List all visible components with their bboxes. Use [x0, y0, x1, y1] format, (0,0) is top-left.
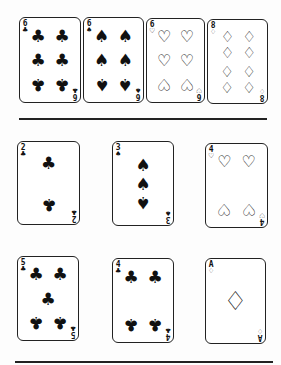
clubs-icon: ♣: [52, 265, 67, 282]
corner-index-bottom: 2♣: [71, 208, 77, 222]
spades-icon: ♠: [135, 175, 150, 192]
clubs-icon: ♣: [123, 269, 138, 286]
clubs-icon: ♣: [41, 154, 56, 171]
clubs-icon: ♣: [28, 265, 43, 282]
spades-icon: ♠: [94, 52, 109, 69]
spades-icon: ♠: [118, 75, 133, 92]
corner-index-top: A♢: [208, 261, 214, 275]
hearts-icon: ♡: [217, 201, 231, 217]
corner-index-top: 3♠: [115, 144, 121, 158]
card-A-of-diamonds[interactable]: A♢A♢♢: [205, 258, 266, 344]
diamonds-icon: ♢: [243, 79, 256, 94]
corner-index-top: 6♡: [149, 21, 155, 35]
card-8-of-diamonds[interactable]: 8♢8♢♢♢♢♢♢♢♢♢: [207, 19, 268, 104]
hearts-icon: ♡: [157, 53, 171, 69]
clubs-icon: ♣: [54, 28, 69, 45]
hearts-icon: ♡: [217, 154, 231, 170]
diamonds-icon: ♢: [259, 87, 265, 94]
card-6-of-hearts[interactable]: 6♡6♡♡♡♡♡♡♡: [146, 18, 205, 103]
clubs-icon: ♣: [165, 326, 171, 333]
clubs-icon: ♣: [72, 86, 78, 93]
card-2-of-clubs[interactable]: 2♣2♣♣♣: [17, 141, 80, 225]
clubs-icon: ♣: [115, 268, 121, 275]
diamonds-icon: ♢: [257, 327, 263, 334]
corner-index-bottom: 3♠: [165, 209, 171, 223]
corner-index-top: 8♢: [210, 22, 216, 36]
corner-index-top: 4♡: [208, 146, 214, 160]
card-3-of-spades[interactable]: 3♠3♠♠♠♠: [112, 141, 174, 226]
divider-line: [15, 361, 273, 363]
clubs-icon: ♣: [147, 269, 162, 286]
hearts-icon: ♡: [180, 76, 194, 92]
clubs-icon: ♣: [147, 315, 162, 332]
hearts-icon: ♡: [157, 76, 171, 92]
hearts-icon: ♡: [180, 53, 194, 69]
hearts-icon: ♡: [259, 211, 265, 218]
clubs-icon: ♣: [71, 208, 77, 215]
hearts-icon: ♡: [208, 153, 214, 160]
diamonds-icon: ♢: [221, 62, 234, 77]
spades-icon: ♠: [94, 28, 109, 45]
spades-icon: ♠: [118, 52, 133, 69]
card-6-of-clubs[interactable]: 6♣6♣♣♣♣♣♣♣: [19, 17, 81, 103]
diamonds-icon: ♢: [208, 268, 214, 275]
corner-index-bottom: A♢: [257, 327, 263, 341]
clubs-icon: ♣: [70, 324, 76, 331]
corner-index-top: 6♠: [86, 20, 92, 34]
corner-index-bottom: 6♡: [196, 86, 202, 100]
clubs-icon: ♣: [30, 28, 45, 45]
spades-icon: ♠: [86, 27, 92, 34]
corner-index-bottom: 4♡: [259, 211, 265, 225]
corner-index-bottom: 6♣: [72, 86, 78, 100]
clubs-icon: ♣: [54, 52, 69, 69]
diamonds-icon: ♢: [243, 29, 256, 44]
spades-icon: ♠: [94, 75, 109, 92]
corner-index-bottom: 4♣: [165, 326, 171, 340]
clubs-icon: ♣: [30, 75, 45, 92]
diamonds-icon: ♢: [243, 46, 256, 61]
spades-icon: ♠: [135, 157, 150, 174]
diamonds-icon: ♢: [210, 29, 216, 36]
spades-icon: ♠: [118, 28, 133, 45]
hearts-icon: ♡: [157, 29, 171, 45]
corner-index-top: 2♣: [20, 144, 26, 158]
diamonds-icon: ♢: [221, 79, 234, 94]
card-6-of-spades[interactable]: 6♠6♠♠♠♠♠♠♠: [83, 17, 144, 103]
corner-index-bottom: 6♠: [135, 86, 141, 100]
hearts-icon: ♡: [149, 28, 155, 35]
clubs-icon: ♣: [20, 266, 26, 273]
clubs-icon: ♣: [54, 75, 69, 92]
hearts-icon: ♡: [196, 86, 202, 93]
clubs-icon: ♣: [30, 52, 45, 69]
corner-index-bottom: 8♢: [259, 87, 265, 101]
clubs-icon: ♣: [123, 315, 138, 332]
hearts-icon: ♡: [242, 201, 256, 217]
spades-icon: ♠: [165, 209, 171, 216]
card-5-of-clubs[interactable]: 5♣5♣♣♣♣♣♣: [17, 256, 79, 341]
spades-icon: ♠: [115, 151, 121, 158]
diamonds-icon: ♢: [224, 288, 247, 314]
hearts-icon: ♡: [180, 29, 194, 45]
corner-index-top: 6♣: [22, 20, 28, 34]
card-4-of-hearts[interactable]: 4♡4♡♡♡♡♡: [205, 143, 268, 228]
clubs-icon: ♣: [20, 151, 26, 158]
corner-index-top: 4♣: [115, 261, 121, 275]
spades-icon: ♠: [135, 193, 150, 210]
hearts-icon: ♡: [242, 154, 256, 170]
clubs-icon: ♣: [52, 313, 67, 330]
diamonds-icon: ♢: [243, 62, 256, 77]
clubs-icon: ♣: [22, 27, 28, 34]
corner-index-top: 5♣: [20, 259, 26, 273]
clubs-icon: ♣: [40, 290, 55, 307]
diamonds-icon: ♢: [221, 29, 234, 44]
divider-line: [19, 118, 267, 120]
corner-index-bottom: 5♣: [70, 324, 76, 338]
diamonds-icon: ♢: [221, 46, 234, 61]
clubs-icon: ♣: [28, 313, 43, 330]
spades-icon: ♠: [135, 86, 141, 93]
clubs-icon: ♣: [41, 195, 56, 212]
card-4-of-clubs[interactable]: 4♣4♣♣♣♣♣: [112, 258, 174, 343]
